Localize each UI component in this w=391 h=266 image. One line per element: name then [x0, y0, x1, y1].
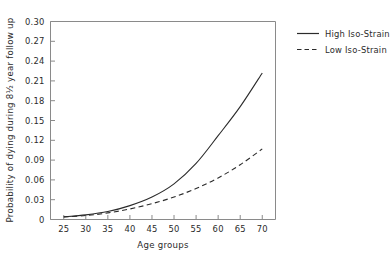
legend-label-high-iso-strain: High Iso-Strain	[325, 29, 390, 39]
x-tick-label: 30	[80, 224, 91, 234]
line-chart: 00.030.060.090.120.150.180.210.240.270.3…	[0, 0, 391, 266]
legend-label-low-iso-strain: Low Iso-Strain	[325, 45, 387, 55]
x-tick-label: 65	[235, 224, 246, 234]
data-series-group	[64, 73, 263, 217]
x-tick-label: 55	[191, 224, 202, 234]
y-tick-label: 0.30	[25, 17, 44, 27]
y-tick-label: 0.12	[25, 135, 44, 145]
x-tick-label: 35	[102, 224, 113, 234]
x-tick-label: 40	[124, 224, 135, 234]
x-axis-ticks: 25303540455055606570	[58, 215, 268, 234]
plot-frame	[51, 22, 276, 220]
y-tick-label: 0.09	[25, 155, 44, 165]
figure-container: 00.030.060.090.120.150.180.210.240.270.3…	[0, 0, 391, 266]
y-tick-label: 0.06	[25, 175, 44, 185]
x-axis-title: Age groups	[137, 240, 189, 250]
y-tick-label: 0.18	[25, 96, 44, 106]
x-tick-label: 60	[213, 224, 224, 234]
y-tick-label: 0.21	[25, 76, 44, 86]
y-tick-label: 0.27	[25, 36, 44, 46]
y-tick-label: 0	[39, 215, 45, 225]
series-line-high-iso-strain	[64, 73, 263, 217]
y-tick-label: 0.15	[25, 116, 44, 126]
y-axis-title: Probability of dying during 8½ year foll…	[5, 18, 15, 223]
x-tick-label: 50	[168, 224, 179, 234]
x-tick-label: 70	[257, 224, 268, 234]
y-tick-label: 0.03	[25, 195, 44, 205]
x-tick-label: 45	[146, 224, 157, 234]
x-tick-label: 25	[58, 224, 69, 234]
series-line-low-iso-strain	[64, 149, 263, 217]
chart-legend: High Iso-Strain Low Iso-Strain	[297, 29, 390, 55]
y-tick-label: 0.24	[25, 56, 44, 66]
